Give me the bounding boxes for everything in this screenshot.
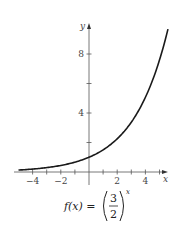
- curve-line: [19, 29, 168, 170]
- x-tick-label: 2: [114, 176, 120, 186]
- y-tick-label: 4: [78, 108, 84, 118]
- x-tick-label: 4: [143, 176, 149, 186]
- right-paren-icon: [120, 191, 124, 221]
- x-axis: [14, 170, 168, 175]
- y-tick-label: 8: [78, 49, 84, 59]
- svg-text:f(x) =: f(x) =: [63, 200, 96, 213]
- y-axis: [87, 23, 92, 185]
- left-paren-icon: [104, 191, 108, 221]
- formula-lhs: f(x) =: [63, 200, 96, 213]
- formula-exponent: x: [126, 188, 130, 196]
- formula-numerator: 3: [110, 192, 117, 205]
- x-tick-label: −4: [26, 176, 40, 186]
- formula-caption: f(x) = 3 2 x: [0, 187, 184, 225]
- formula-denominator: 2: [110, 208, 117, 221]
- y-axis-arrow-icon: [87, 23, 91, 29]
- x-tick-label: −2: [54, 176, 67, 186]
- x-axis-label: x: [163, 174, 168, 184]
- y-axis-label: y: [79, 21, 86, 31]
